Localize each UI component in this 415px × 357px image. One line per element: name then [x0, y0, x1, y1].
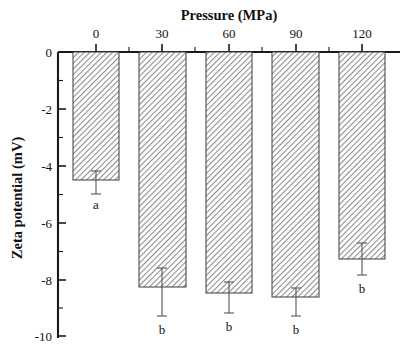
significance-label-90mpa: b — [293, 322, 300, 337]
bar-group-90mpa[interactable]: b — [272, 52, 319, 337]
x-axis-top: 0 30 60 90 120 Pressure (MPa) — [58, 7, 400, 52]
significance-label-120mpa: b — [359, 281, 366, 296]
y-tick-label-m2: -2 — [41, 102, 52, 117]
bar-group-120mpa[interactable]: b — [339, 52, 385, 296]
x-tick-label-0: 0 — [93, 26, 100, 41]
x-tick-label-90: 90 — [290, 26, 303, 41]
significance-label-0mpa: a — [93, 197, 99, 212]
x-tick-label-60: 60 — [223, 26, 236, 41]
bar-90mpa[interactable] — [272, 52, 319, 297]
y-tick-label-m6: -6 — [41, 216, 52, 231]
y-axis-left: 0 -2 -4 -6 -8 -10 Zeta potential (mV) — [9, 45, 66, 344]
bar-group-30mpa[interactable]: b — [139, 52, 186, 337]
bars-group: a b b — [73, 52, 385, 337]
figure-container: 0 30 60 90 120 Pressure (MPa) — [0, 0, 415, 357]
y-tick-label-0: 0 — [46, 45, 53, 60]
bar-group-0mpa[interactable]: a — [73, 52, 119, 212]
x-axis-title: Pressure (MPa) — [181, 7, 278, 24]
x-tick-label-30: 30 — [156, 26, 169, 41]
y-tick-label-m10: -10 — [35, 329, 52, 344]
bar-120mpa[interactable] — [339, 52, 385, 259]
bar-0mpa[interactable] — [73, 52, 119, 180]
significance-label-60mpa: b — [226, 319, 233, 334]
y-tick-label-m8: -8 — [41, 273, 52, 288]
x-axis-major-ticks — [96, 44, 362, 52]
bar-30mpa[interactable] — [139, 52, 186, 287]
y-tick-label-m4: -4 — [41, 159, 52, 174]
zeta-potential-bar-chart: 0 30 60 90 120 Pressure (MPa) — [0, 0, 415, 357]
x-tick-label-120: 120 — [352, 26, 372, 41]
bar-60mpa[interactable] — [206, 52, 252, 293]
y-axis-title: Zeta potential (mV) — [9, 137, 26, 260]
significance-label-30mpa: b — [159, 322, 166, 337]
bar-group-60mpa[interactable]: b — [206, 52, 252, 334]
